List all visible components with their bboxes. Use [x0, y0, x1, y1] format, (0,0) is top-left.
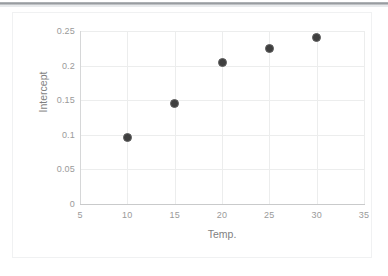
x-axis-tick-label: 10 — [122, 210, 132, 220]
y-axis-tick-label: 0.2 — [62, 61, 75, 71]
data-point — [265, 44, 274, 53]
x-axis-title: Temp. — [80, 228, 364, 240]
gridline-vertical — [364, 31, 365, 204]
x-axis-tick-label: 15 — [169, 210, 179, 220]
gridline-vertical — [222, 31, 223, 204]
data-point — [170, 99, 179, 108]
gridline-vertical — [317, 31, 318, 204]
data-point — [218, 58, 227, 67]
x-axis-tick-label: 35 — [359, 210, 369, 220]
data-point — [312, 33, 321, 42]
x-axis-tick-label: 30 — [311, 210, 321, 220]
y-axis-tick-label: 0 — [70, 199, 75, 209]
y-axis-title: Intercept — [37, 42, 49, 142]
gridline-vertical — [127, 31, 128, 204]
chart-page: 00.050.10.150.20.25 5101520253035 Temp. … — [0, 0, 388, 276]
y-axis-line — [80, 31, 81, 205]
y-axis-tick-label: 0.1 — [62, 130, 75, 140]
x-axis-tick-label: 20 — [217, 210, 227, 220]
y-axis-tick-label: 0.15 — [57, 95, 75, 105]
x-axis-line — [80, 204, 365, 205]
y-axis-tick-label: 0.25 — [57, 26, 75, 36]
gridline-vertical — [175, 31, 176, 204]
gridline-vertical — [269, 31, 270, 204]
x-axis-tick-label: 5 — [77, 210, 82, 220]
y-axis-tick-label: 0.05 — [57, 164, 75, 174]
plot-area — [80, 31, 364, 204]
data-point — [123, 133, 132, 142]
x-axis-tick-label: 25 — [264, 210, 274, 220]
